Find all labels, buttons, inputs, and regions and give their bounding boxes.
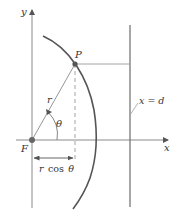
radius-line — [32, 64, 75, 140]
conic-diagram: y x x = d r θ P F r cos θ — [0, 0, 182, 222]
conic-curve — [43, 36, 96, 209]
focus-label: F — [20, 143, 29, 154]
r-cos-theta-label: r cos θ — [39, 163, 74, 174]
r-cos-theta-cos: cos — [48, 163, 64, 174]
directrix-leader — [130, 103, 138, 115]
theta-label: θ — [56, 118, 62, 129]
r-cos-theta-r: r — [39, 163, 45, 174]
r-cos-theta-theta: θ — [68, 163, 74, 174]
point-p — [72, 61, 77, 66]
focus-point — [29, 137, 35, 143]
radius-label: r — [47, 94, 53, 105]
point-p-label: P — [74, 49, 82, 60]
y-axis-label: y — [20, 6, 27, 17]
x-axis-label: x — [164, 142, 170, 153]
directrix-label: x = d — [139, 95, 164, 106]
